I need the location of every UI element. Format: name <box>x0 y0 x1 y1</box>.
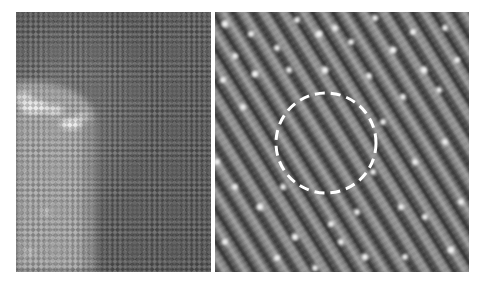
stm-image-right <box>215 12 469 272</box>
stm-image-left <box>16 12 211 272</box>
